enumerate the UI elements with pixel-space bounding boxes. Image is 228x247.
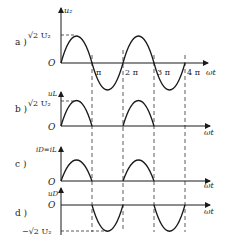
panel-b-origin: O [48,122,56,132]
panel-c-xlabel: ωt [204,181,215,190]
rectifier-waveform-diagram: a ) u₂ √2 U₂ O π 2 π 3 π 4 π ωt b ) uL √… [0,0,228,247]
panel-b-peak-value: √2 U₂ [28,99,51,108]
panel-d: d ) uD O −√2 U₂ ωt [15,188,215,236]
panel-a-xlabel: ωt [206,68,217,77]
tick-pi: π [96,68,101,77]
panel-d-ylabel: uD [48,190,59,198]
panel-b-label: b ) [15,104,27,114]
tick-3pi: 3 π [157,68,170,77]
panel-d-trough-value: −√2 U₂ [22,227,51,236]
tick-2pi: 2 π [125,68,138,77]
panel-b-xlabel: ωt [204,128,215,137]
panel-c-origin: O [48,177,56,187]
panel-d-origin: O [48,200,56,210]
tick-4pi: 4 π [187,68,200,77]
panel-c: c ) iD=iL O ωt [15,146,215,190]
panel-d-label: d ) [15,208,27,218]
panel-a-label: a ) [15,37,27,47]
panel-a-origin: O [48,58,56,68]
panel-a-ylabel: u₂ [64,6,72,15]
panel-b-ylabel: uL [48,90,58,98]
panel-a: a ) u₂ √2 U₂ O π 2 π 3 π 4 π ωt [15,6,217,90]
panel-c-label: c ) [15,159,26,169]
panel-b: b ) uL √2 U₂ O ωt [15,90,215,137]
panel-c-ylabel: iD=iL [36,146,57,154]
panel-a-peak-value: √2 U₂ [28,31,51,40]
panel-d-xlabel: ωt [204,207,215,216]
